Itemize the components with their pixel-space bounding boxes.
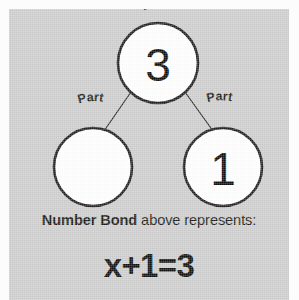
caption-bold-text: Number Bond — [42, 212, 137, 228]
caption-rest-text: above represents: — [137, 212, 256, 228]
part-label-left: Part — [76, 90, 105, 106]
equation-text: x+1=3 — [9, 247, 289, 285]
part-label-right: Part — [205, 89, 234, 105]
part-right-value: 1 — [210, 143, 236, 195]
connector-line-left — [104, 92, 131, 131]
whole-label: Whole — [139, 9, 182, 13]
part-circle-left — [54, 128, 132, 206]
number-bond-diagram: 3 1 Whole Part Part — [9, 9, 289, 209]
worksheet-card: 3 1 Whole Part Part Number — [9, 9, 289, 300]
whole-value: 3 — [145, 39, 171, 91]
caption-line: Number Bond above represents: — [9, 212, 289, 228]
screenshot-root: 3 1 Whole Part Part Number — [0, 0, 299, 300]
